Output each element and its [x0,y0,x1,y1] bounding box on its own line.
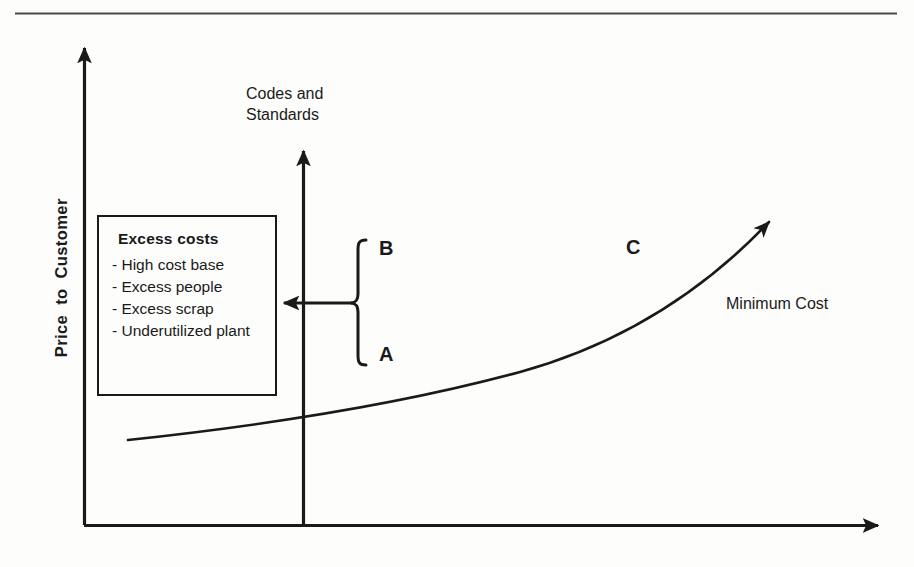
list-item: - Excess scrap [112,298,272,320]
minimum-cost-label: Minimum Cost [726,295,828,314]
excess-costs-title: Excess costs [118,230,219,248]
excess-costs-list: - High cost base - Excess people - Exces… [112,254,272,342]
y-axis-title: Price to Customer [52,178,71,378]
list-item: - Underutilized plant [112,320,272,342]
figure-canvas: Price to Customer Codes and Standards Ex… [0,0,914,567]
list-item: - Excess people [112,276,272,298]
range-brace [351,240,366,365]
brace-label-a: A [379,343,393,367]
brace-label-b: B [379,237,393,261]
codes-and-standards-label: Codes and Standards [246,84,323,126]
curve-label-c: C [626,236,640,260]
list-item: - High cost base [112,254,272,276]
excess-costs-callout: Excess costs - High cost base - Excess p… [97,215,277,396]
